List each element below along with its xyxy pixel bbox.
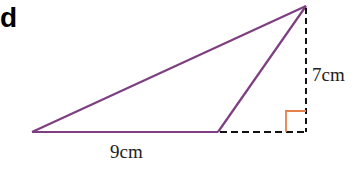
triangle-short-side [218,6,306,132]
right-angle-marker [286,111,306,132]
height-length-label: 7cm [312,64,345,86]
triangle-long-side [32,6,306,132]
triangle-diagram [0,0,360,170]
triangle [32,6,306,132]
base-length-label: 9cm [110,141,143,163]
